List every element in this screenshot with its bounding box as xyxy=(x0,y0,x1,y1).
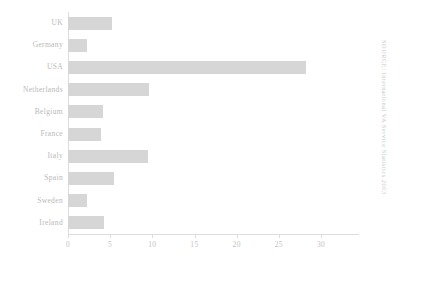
bar xyxy=(68,17,112,30)
bar-row: Spain xyxy=(68,167,359,189)
x-tick-label: 15 xyxy=(190,240,198,249)
x-tick-mark xyxy=(110,234,111,238)
x-tick-label: 20 xyxy=(233,240,241,249)
x-tick-label: 10 xyxy=(148,240,156,249)
bar xyxy=(68,105,103,118)
x-axis-line xyxy=(68,234,359,235)
bar-row: Ireland xyxy=(68,212,359,234)
category-label: Italy xyxy=(48,145,69,167)
x-tick-mark xyxy=(321,234,322,238)
bar xyxy=(68,216,104,229)
x-tick-mark xyxy=(152,234,153,238)
category-label: USA xyxy=(47,56,68,78)
category-label: France xyxy=(40,123,68,145)
x-tick-mark xyxy=(195,234,196,238)
x-tick-label: 25 xyxy=(275,240,283,249)
category-label: Sweden xyxy=(37,190,68,212)
category-label: Spain xyxy=(44,167,68,189)
bar-row: UK xyxy=(68,12,359,34)
source-caption: SOURCE: International VA Service Statist… xyxy=(381,40,388,200)
category-label: Germany xyxy=(33,34,68,56)
plot-area: UKGermanyUSANetherlandsBelgiumFranceItal… xyxy=(68,12,359,234)
bar xyxy=(68,61,306,74)
bar xyxy=(68,39,87,52)
x-tick-mark xyxy=(279,234,280,238)
bar xyxy=(68,83,149,96)
bar-row: Germany xyxy=(68,34,359,56)
category-label: Ireland xyxy=(39,212,68,234)
bar xyxy=(68,128,101,141)
bar-row: France xyxy=(68,123,359,145)
x-tick-label: 30 xyxy=(317,240,325,249)
x-tick-mark xyxy=(237,234,238,238)
bar-row: Italy xyxy=(68,145,359,167)
bar xyxy=(68,150,148,163)
category-label: Netherlands xyxy=(23,79,68,101)
x-tick-label: 0 xyxy=(66,240,70,249)
bar-chart-figure: UKGermanyUSANetherlandsBelgiumFranceItal… xyxy=(0,0,425,282)
bar-row: Netherlands xyxy=(68,79,359,101)
bar xyxy=(68,194,87,207)
bar-row: Belgium xyxy=(68,101,359,123)
x-tick-mark xyxy=(68,234,69,238)
category-label: UK xyxy=(51,12,68,34)
bar xyxy=(68,172,114,185)
x-tick-label: 5 xyxy=(108,240,112,249)
bar-row: Sweden xyxy=(68,190,359,212)
bar-row: USA xyxy=(68,56,359,78)
category-label: Belgium xyxy=(35,101,68,123)
